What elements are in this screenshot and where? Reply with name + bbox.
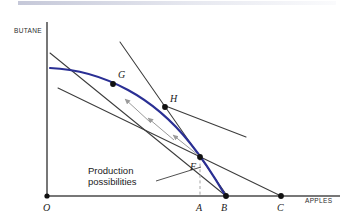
annotation-line-1: Production bbox=[88, 165, 133, 176]
point-label-A: A bbox=[195, 202, 203, 213]
y-axis-label: BUTANE bbox=[14, 27, 42, 34]
price-lines-group bbox=[50, 42, 281, 197]
point-label-F: F bbox=[189, 161, 197, 172]
annotation-line-2: possibilities bbox=[88, 176, 137, 187]
direction-arrows-group bbox=[125, 99, 198, 155]
price-line-through-G bbox=[50, 53, 226, 196]
point-dot-O bbox=[44, 193, 49, 198]
point-dot-B bbox=[223, 193, 229, 199]
point-dot-H bbox=[162, 104, 168, 110]
point-label-G: G bbox=[118, 69, 125, 80]
point-label-B: B bbox=[221, 202, 227, 213]
point-label-H: H bbox=[169, 93, 178, 104]
point-label-C: C bbox=[277, 202, 284, 213]
point-dot-F bbox=[197, 154, 203, 160]
figure-canvas: BUTANE APPLES O G H F A B C Production p… bbox=[0, 0, 353, 219]
production-possibilities-curve bbox=[50, 68, 225, 195]
point-label-O: O bbox=[43, 202, 50, 213]
point-dot-C bbox=[278, 193, 284, 199]
x-axis-label: APPLES bbox=[305, 197, 333, 204]
production-possibilities-diagram: BUTANE APPLES O G H F A B C Production p… bbox=[0, 0, 353, 219]
point-dot-G bbox=[110, 81, 116, 87]
